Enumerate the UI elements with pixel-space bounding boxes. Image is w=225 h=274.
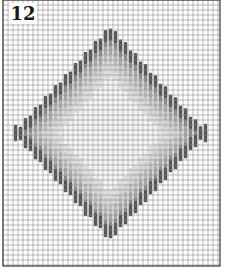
figure-number-badge: 12 [9, 3, 37, 24]
needlepoint-chart [0, 0, 225, 274]
figure-number: 12 [10, 5, 35, 23]
